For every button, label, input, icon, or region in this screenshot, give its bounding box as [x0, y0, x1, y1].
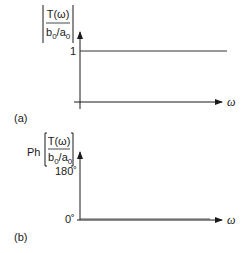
panel-b-label: (b) [14, 231, 27, 243]
x-axis-label: ω [227, 95, 235, 109]
y-tick-180: 180˚ [55, 165, 77, 177]
bode-diagram: T(ω) b0/a0 1 ω (a) Ph T(ω) b0/a0 180˚ 0˚ [0, 0, 243, 253]
y-tick-1: 1 [70, 45, 76, 57]
panel-a-label: (a) [14, 112, 27, 124]
phase-prefix: Ph [27, 146, 40, 158]
panel-b: Ph T(ω) b0/a0 180˚ 0˚ ω (b) [14, 133, 235, 243]
y-label-numerator: T(ω) [47, 8, 70, 20]
y-label-numerator: T(ω) [48, 135, 71, 147]
y-label-denominator: b0/a0 [46, 26, 71, 41]
y-tick-0: 0˚ [65, 213, 75, 225]
y-label-denominator: b0/a0 [48, 151, 73, 166]
panel-a: T(ω) b0/a0 1 ω (a) [14, 5, 235, 124]
x-axis-label: ω [227, 213, 235, 227]
